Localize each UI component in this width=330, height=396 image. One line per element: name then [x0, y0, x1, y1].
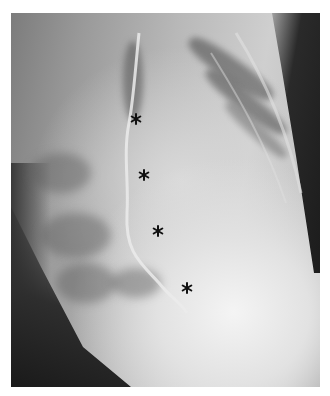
trachea-shadow	[123, 41, 143, 121]
spine-shadow	[31, 153, 91, 193]
asterisk-marker-1	[130, 113, 142, 125]
asterisk-marker-3	[152, 225, 164, 237]
asterisk-marker-2	[138, 169, 150, 181]
spine-shadow	[41, 213, 111, 258]
spine-shadow	[56, 263, 116, 303]
spine-shadow	[111, 268, 161, 298]
xray-image	[11, 13, 320, 387]
asterisk-icon	[152, 225, 164, 237]
asterisk-icon	[181, 282, 193, 294]
asterisk-icon	[138, 169, 150, 181]
asterisk-marker-4	[181, 282, 193, 294]
asterisk-icon	[130, 113, 142, 125]
